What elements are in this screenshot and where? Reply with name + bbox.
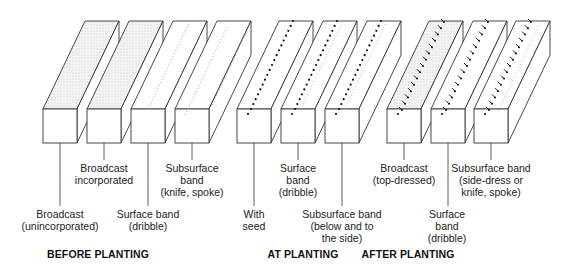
seed-dot — [336, 20, 338, 22]
plant-dot — [506, 71, 508, 73]
seed-dot — [271, 64, 273, 66]
seed-dot — [301, 93, 303, 95]
plant-dot — [530, 21, 532, 23]
plant-dot — [491, 103, 493, 105]
seed-dot — [259, 88, 261, 90]
seed-dot — [306, 83, 308, 85]
seed-dot — [255, 98, 257, 100]
seed-dot — [266, 74, 268, 76]
seed-dot — [276, 54, 278, 56]
plant-dot — [457, 84, 459, 86]
placement-label: Subsurface band (side-dress or knife, sp… — [451, 162, 530, 198]
section-title: BEFORE PLANTING — [47, 248, 149, 260]
seed-dot — [290, 25, 292, 27]
seed-dot — [343, 98, 345, 100]
placement-label: Surface band (dribble) — [117, 208, 179, 232]
plant-dot — [469, 59, 471, 61]
plant-dot — [481, 34, 483, 36]
seed-dot — [264, 79, 266, 81]
placement-label: With seed — [243, 208, 266, 232]
plant-dot — [441, 113, 443, 115]
fertilizer-placement-diagram — [0, 0, 572, 274]
seed-dot — [324, 44, 326, 46]
seed-dot — [257, 93, 259, 95]
plant-dot — [472, 52, 474, 54]
soil-row-blocks — [43, 19, 550, 143]
plant-dot — [410, 90, 412, 92]
seed-dot — [285, 35, 287, 37]
placement-label: Broadcast (unincorporated) — [21, 208, 98, 232]
plant-dot — [521, 40, 523, 42]
block-front-face — [131, 109, 165, 143]
seed-dot — [252, 103, 254, 105]
placement-label: Broadcast (top-dressed) — [373, 162, 435, 186]
seed-dot — [380, 20, 382, 22]
plant-dot — [437, 34, 439, 36]
seed-dot — [291, 113, 293, 115]
seed-dot — [366, 49, 368, 51]
plant-dot — [475, 46, 477, 48]
plant-dot — [428, 52, 430, 54]
plant-dot — [419, 71, 421, 73]
block-front-face — [43, 109, 77, 143]
seed-dot — [350, 83, 352, 85]
seed-dot — [273, 59, 275, 61]
seed-dot — [373, 35, 375, 37]
seed-dot — [361, 59, 363, 61]
block-front-face — [281, 109, 315, 143]
seed-dot — [320, 54, 322, 56]
plant-dot — [407, 96, 409, 98]
block-front-face — [175, 109, 209, 143]
seed-dot — [378, 25, 380, 27]
seed-dot — [345, 93, 347, 95]
seed-dot — [313, 69, 315, 71]
seed-dot — [352, 79, 354, 81]
plant-dot — [416, 78, 418, 80]
plant-dot — [509, 65, 511, 67]
seed-dot — [329, 35, 331, 37]
seed-dot — [364, 54, 366, 56]
seed-dot — [250, 108, 252, 110]
plant-dot — [440, 27, 442, 29]
plant-dot — [487, 21, 489, 23]
plant-dot — [527, 27, 529, 29]
block-front-face — [325, 109, 359, 143]
plant-dot — [422, 65, 424, 67]
seed-dot — [357, 69, 359, 71]
plant-dot — [404, 103, 406, 105]
plant-dot — [494, 96, 496, 98]
plant-dot — [401, 109, 403, 111]
seed-dot — [347, 88, 349, 90]
seed-dot — [340, 103, 342, 105]
placement-label: Subsurface band (below and to the side) — [302, 208, 381, 244]
plant-dot — [518, 46, 520, 48]
plant-dot — [443, 21, 445, 23]
seed-dot — [334, 25, 336, 27]
plant-dot — [463, 71, 465, 73]
placement-label: Surface band (dribble) — [279, 162, 318, 198]
seed-dot — [375, 30, 377, 32]
plant-dot — [451, 96, 453, 98]
block-front-face — [431, 109, 465, 143]
plant-dot — [413, 84, 415, 86]
seed-dot — [283, 39, 285, 41]
seed-dot — [308, 79, 310, 81]
seed-dot — [359, 64, 361, 66]
block-front-face — [474, 109, 508, 143]
plant-dot — [512, 59, 514, 61]
plant-dot — [503, 78, 505, 80]
plant-dot — [460, 78, 462, 80]
plant-dot — [454, 90, 456, 92]
plant-dot — [484, 27, 486, 29]
seed-dot — [299, 98, 301, 100]
seed-dot — [371, 39, 373, 41]
plant-dot — [478, 40, 480, 42]
seed-dot — [280, 44, 282, 46]
seed-dot — [322, 49, 324, 51]
plant-dot — [466, 65, 468, 67]
seed-dot — [247, 113, 249, 115]
plant-dot — [431, 46, 433, 48]
plant-dot — [434, 40, 436, 42]
seed-dot — [354, 74, 356, 76]
seed-dot — [331, 30, 333, 32]
